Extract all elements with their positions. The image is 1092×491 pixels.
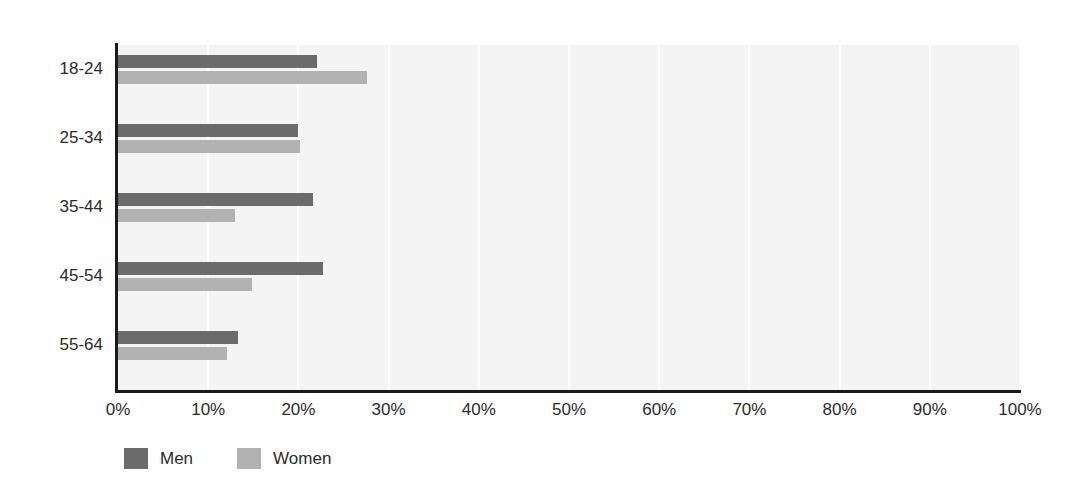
bar-men-35-44 (118, 193, 313, 206)
x-axis-line (115, 390, 1021, 393)
gridline (748, 45, 750, 390)
x-tick-label-90%: 90% (913, 400, 947, 420)
legend: MenWomen (124, 448, 331, 469)
bar-women-18-24 (118, 71, 367, 84)
category-label-55-64: 55-64 (0, 335, 103, 355)
legend-swatch-icon-women (237, 448, 261, 469)
x-tick-label-40%: 40% (462, 400, 496, 420)
category-label-18-24: 18-24 (0, 59, 103, 79)
bar-men-25-34 (118, 124, 298, 137)
bar-women-35-44 (118, 209, 235, 222)
bar-women-45-54 (118, 278, 252, 291)
gridline (297, 45, 299, 390)
x-tick-label-0%: 0% (106, 400, 131, 420)
plot-area (118, 45, 1020, 390)
x-tick-label-50%: 50% (552, 400, 586, 420)
legend-item-women[interactable]: Women (237, 448, 331, 469)
bar-chart: 18-2425-3435-4445-5455-64 0%10%20%30%40%… (0, 0, 1092, 491)
gridline (388, 45, 390, 390)
x-tick-label-60%: 60% (642, 400, 676, 420)
category-label-35-44: 35-44 (0, 197, 103, 217)
x-tick-label-30%: 30% (372, 400, 406, 420)
bar-men-55-64 (118, 331, 238, 344)
bar-men-45-54 (118, 262, 323, 275)
x-tick-label-100%: 100% (998, 400, 1041, 420)
legend-label-women: Women (273, 449, 331, 469)
x-tick-label-80%: 80% (823, 400, 857, 420)
gridline (929, 45, 931, 390)
x-tick-label-10%: 10% (191, 400, 225, 420)
bar-women-25-34 (118, 140, 300, 153)
category-label-25-34: 25-34 (0, 128, 103, 148)
gridline (658, 45, 660, 390)
bar-women-55-64 (118, 347, 227, 360)
gridline (478, 45, 480, 390)
legend-swatch-icon-men (124, 448, 148, 469)
legend-item-men[interactable]: Men (124, 448, 193, 469)
gridline (1019, 45, 1021, 390)
x-tick-label-20%: 20% (281, 400, 315, 420)
legend-label-men: Men (160, 449, 193, 469)
category-label-45-54: 45-54 (0, 266, 103, 286)
bar-men-18-24 (118, 55, 317, 68)
y-axis-line (115, 43, 118, 392)
gridline (839, 45, 841, 390)
gridline (568, 45, 570, 390)
x-tick-label-70%: 70% (732, 400, 766, 420)
